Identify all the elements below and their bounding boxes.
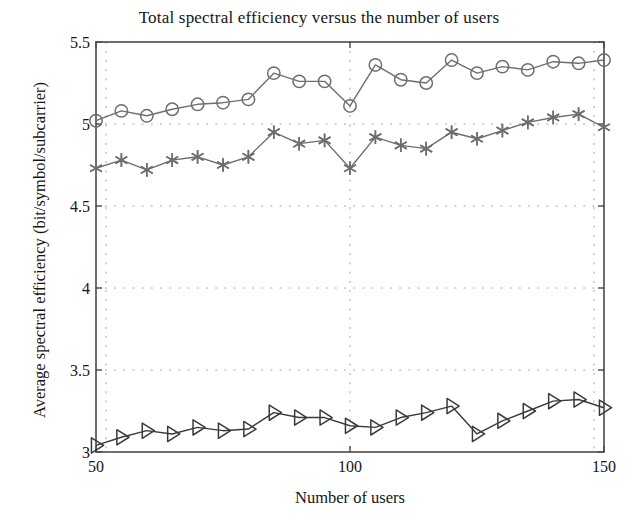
data-point-triangle-right [599, 400, 611, 415]
data-point-asterisk [90, 161, 102, 175]
series-triangle [91, 392, 611, 453]
data-point-asterisk [522, 116, 534, 130]
data-point-asterisk [446, 125, 458, 139]
plot-area [0, 0, 638, 532]
data-point-asterisk [141, 163, 153, 177]
data-point-asterisk [598, 120, 610, 134]
data-point-asterisk [471, 132, 483, 146]
data-series-layer [90, 54, 612, 453]
data-point-asterisk [116, 153, 128, 167]
data-point-asterisk [497, 124, 509, 138]
data-point-asterisk [217, 158, 229, 172]
chart-figure: Total spectral efficiency versus the num… [0, 0, 638, 532]
series-asterisk [90, 107, 610, 176]
